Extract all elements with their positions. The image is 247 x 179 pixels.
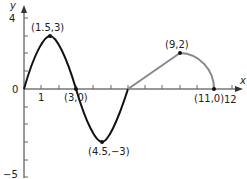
x-axis-arrow-icon [235, 86, 243, 92]
line-segment [128, 53, 180, 89]
y-axis-arrow-icon [21, 5, 27, 13]
quarter-circle [180, 53, 214, 89]
origin-label: 0 [12, 84, 18, 95]
y-axis-label: y [9, 0, 17, 11]
chart: y x 4 0 −5 1 12 (1.5,3) (3,0) (4.5,−3) (… [0, 0, 247, 179]
label-p3: (4.5,−3) [88, 146, 130, 157]
tick-y4: 4 [9, 13, 15, 24]
tick-x12: 12 [224, 94, 237, 105]
label-p5: (11,0) [194, 93, 224, 104]
x-axis-label: x [239, 75, 246, 86]
label-p2: (3,0) [64, 92, 88, 103]
label-p4: (9,2) [165, 39, 189, 50]
label-p1: (1.5,3) [31, 22, 64, 33]
tick-ym5: −5 [3, 169, 18, 179]
tick-x1: 1 [38, 92, 44, 103]
